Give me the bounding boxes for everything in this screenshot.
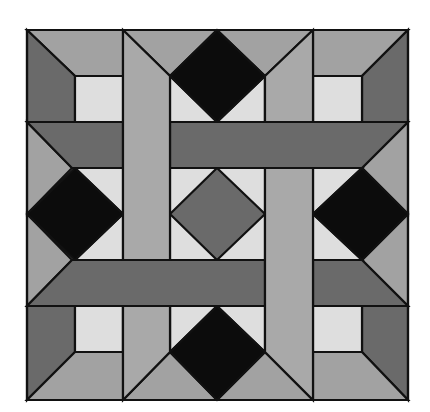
center-diamond-unit xyxy=(170,168,265,260)
corner-unit-bottom-right xyxy=(313,306,408,400)
corner-unit-bottom-left xyxy=(27,306,123,400)
corner-unit-top-left xyxy=(27,30,123,122)
corner-unit-top-right xyxy=(313,30,408,122)
corner-square xyxy=(313,76,362,122)
corner-square xyxy=(313,306,362,352)
corner-square xyxy=(75,76,123,122)
corner-square xyxy=(75,306,123,352)
quilt-block-diagram xyxy=(0,0,430,412)
